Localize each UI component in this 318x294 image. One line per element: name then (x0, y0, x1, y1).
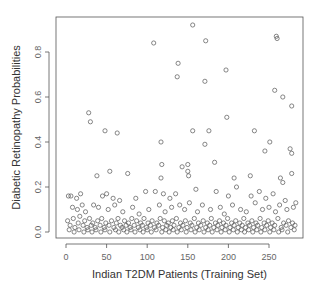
y-tick-label: 0.4 (33, 136, 43, 149)
scatter-chart: 050100150200250 0.00.20.40.60.8 Indian T… (0, 0, 318, 294)
x-tick-label: 200 (221, 252, 236, 262)
x-tick-label: 100 (140, 252, 155, 262)
x-tick-label: 50 (102, 252, 112, 262)
y-tick-label: 0.6 (33, 91, 43, 104)
y-tick-label: 0.0 (33, 226, 43, 239)
x-tick-label: 0 (63, 252, 68, 262)
y-axis-label: Diabetic Retinopathy Probabilities (10, 45, 22, 210)
x-axis-label: Indian T2DM Patients (Training Set) (92, 268, 267, 280)
chart-background (0, 0, 318, 294)
y-tick-label: 0.8 (33, 46, 43, 59)
x-tick-label: 250 (261, 252, 276, 262)
x-tick-label: 150 (180, 252, 195, 262)
y-tick-label: 0.2 (33, 181, 43, 194)
